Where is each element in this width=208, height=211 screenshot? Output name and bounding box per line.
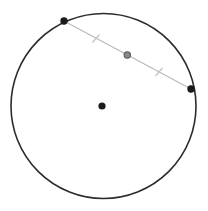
figure-canvas [0,0,208,211]
congruence-tick-2-icon [156,68,163,76]
geometry-diagram [0,0,208,211]
chord-endpoint-b-marker [187,85,194,92]
chord-midpoint-marker [124,52,130,58]
chord-endpoint-a-marker [60,17,67,24]
congruence-tick-1-icon [93,35,100,43]
circle-center-marker [98,102,105,109]
